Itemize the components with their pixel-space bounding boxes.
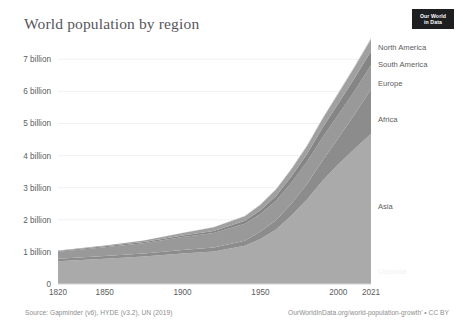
x-axis-tick-label: 1950 xyxy=(251,288,270,297)
source-note: Source: Gapminder (v6), HYDE (v3.2), UN … xyxy=(25,309,172,316)
y-axis-tick-label: 7 billion xyxy=(23,55,51,64)
series-label-south-america[interactable]: South America xyxy=(378,60,428,69)
y-axis-tick-label: 2 billion xyxy=(23,216,51,225)
area-series-group xyxy=(58,38,371,284)
x-axis-tick-label: 1850 xyxy=(96,288,115,297)
y-axis-tick-label: 4 billion xyxy=(23,152,51,161)
y-axis-tick-label: 6 billion xyxy=(23,87,51,96)
x-axis-tick-label: 1900 xyxy=(173,288,192,297)
series-inline-labels: North AmericaSouth AmericaEuropeAfricaAs… xyxy=(378,43,428,276)
chart-container: World population by region Our World in … xyxy=(0,0,463,324)
y-axis-tick-label: 3 billion xyxy=(23,184,51,193)
x-axis-tick-label: 2000 xyxy=(329,288,348,297)
y-axis-tick-label: 5 billion xyxy=(23,119,51,128)
stacked-area-chart: 01 billion2 billion3 billion4 billion5 b… xyxy=(0,0,463,324)
x-axis-tick-label: 2021 xyxy=(362,288,381,297)
series-label-oceania[interactable]: Oceania xyxy=(378,267,407,276)
series-label-asia[interactable]: Asia xyxy=(378,202,394,211)
attribution-note[interactable]: OurWorldInData.org/world-population-grow… xyxy=(288,309,449,316)
series-label-africa[interactable]: Africa xyxy=(378,115,398,124)
x-axis-ticks: 182018501900195020002021 xyxy=(49,288,381,297)
x-axis-tick-label: 1820 xyxy=(49,288,68,297)
series-label-north-america[interactable]: North America xyxy=(378,43,427,52)
y-axis-ticks: 01 billion2 billion3 billion4 billion5 b… xyxy=(23,55,51,289)
series-label-europe[interactable]: Europe xyxy=(378,79,403,88)
y-axis-tick-label: 1 billion xyxy=(23,248,51,257)
